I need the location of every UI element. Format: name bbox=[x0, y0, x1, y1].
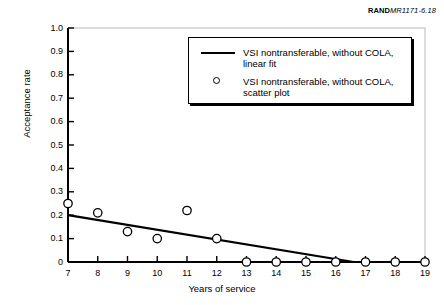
figure-container: RANDMR1171-6.18 Acceptance rate Years of… bbox=[0, 0, 444, 305]
legend-item-label: VSI nontransferable, without COLA, scatt… bbox=[243, 76, 407, 98]
line-swatch-icon bbox=[201, 52, 235, 54]
legend-item-scatter-plot: VSI nontransferable, without COLA, scatt… bbox=[199, 76, 407, 98]
circle-swatch-icon bbox=[213, 77, 220, 84]
linear-fit-line bbox=[68, 215, 425, 262]
chart-legend: VSI nontransferable, without COLA, linea… bbox=[188, 37, 412, 104]
legend-item-label: VSI nontransferable, without COLA, linea… bbox=[243, 47, 407, 69]
legend-item-linear-fit: VSI nontransferable, without COLA, linea… bbox=[199, 47, 407, 69]
